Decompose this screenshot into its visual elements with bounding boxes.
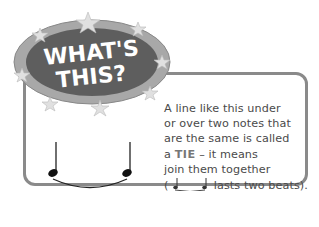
desc-line: or over two notes that: [164, 116, 314, 131]
desc-line: a TIE – it means: [164, 147, 314, 162]
inline-tied-notes-icon: [172, 177, 210, 191]
tie-description: A line like this under or over two notes…: [164, 101, 314, 193]
whats-this-badge: WHAT'S THIS?: [0, 0, 180, 122]
desc-line: A line like this under: [164, 101, 314, 116]
desc-line: are the same is called: [164, 131, 314, 146]
desc-line: ( lasts two beats).: [164, 177, 314, 193]
tied-notes-illustration: [45, 138, 140, 193]
desc-line: join them together: [164, 162, 314, 177]
tie-term: TIE: [175, 148, 196, 161]
